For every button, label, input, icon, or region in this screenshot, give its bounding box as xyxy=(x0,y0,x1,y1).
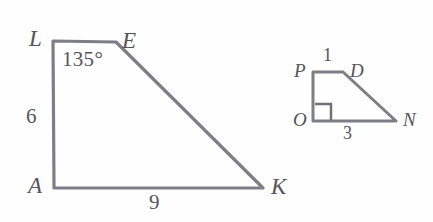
figure-canvas xyxy=(0,0,433,222)
vertex-label-o: O xyxy=(293,110,307,129)
right-angle-marker-icon xyxy=(315,104,331,120)
vertex-label-n: N xyxy=(403,110,416,129)
vertex-label-a: A xyxy=(28,174,42,197)
vertex-label-e: E xyxy=(122,29,136,52)
vertex-label-p: P xyxy=(294,61,306,80)
side-length-la: 6 xyxy=(26,106,37,127)
side-length-pd: 1 xyxy=(323,46,332,64)
side-length-ak: 9 xyxy=(149,192,160,213)
vertex-label-d: D xyxy=(350,61,364,80)
geometry-figure: L E K A 6 9 135° P D N O 1 3 xyxy=(0,0,433,222)
vertex-label-l: L xyxy=(29,27,42,50)
angle-measure-e: 135° xyxy=(62,49,103,70)
side-length-on: 3 xyxy=(343,124,352,142)
vertex-label-k: K xyxy=(271,175,286,198)
